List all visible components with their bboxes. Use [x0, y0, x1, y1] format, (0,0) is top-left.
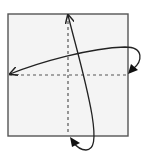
diagram-svg [0, 0, 147, 157]
fold-diagram [0, 0, 147, 157]
bottom-arrowhead-icon [70, 137, 80, 147]
